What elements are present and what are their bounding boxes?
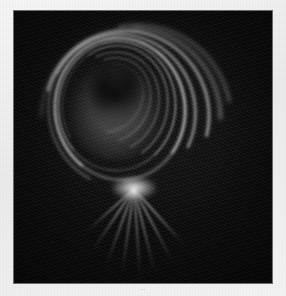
plate-vignette	[14, 11, 272, 283]
photographic-plate	[14, 11, 272, 283]
paper-page: —	[0, 0, 286, 296]
figure-caption: —	[0, 286, 286, 292]
